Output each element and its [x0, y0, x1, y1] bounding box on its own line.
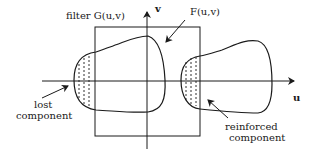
lost-label-line2: component [16, 110, 72, 121]
filter-diagram: filter G(u,v) F(u,v) v u lost component … [0, 0, 311, 153]
spectrum-label: F(u,v) [190, 6, 220, 17]
reinforced-pointer-arrow [208, 100, 228, 118]
lost-pointer-arrow [42, 86, 68, 98]
spectrum-pointer-arrow [166, 20, 185, 42]
reinforced-label-line2: component [229, 132, 285, 143]
u-axis-label: u [293, 92, 300, 103]
reinforced-label-line1: reinforced [225, 121, 278, 132]
v-axis-label: v [154, 3, 162, 14]
lost-label-line1: lost [34, 99, 52, 110]
spectrum-blob-original [74, 36, 165, 112]
filter-label: filter G(u,v) [66, 10, 125, 21]
spectrum-blob-shifted [181, 41, 272, 113]
